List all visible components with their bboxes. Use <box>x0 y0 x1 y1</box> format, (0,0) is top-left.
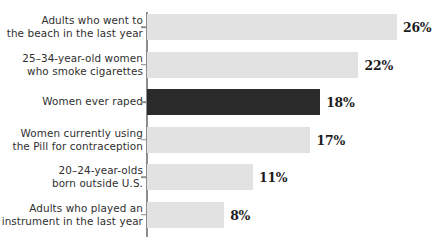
axis-tick <box>141 176 146 178</box>
axis-tick <box>141 214 146 216</box>
bar-row: Adults who went to the beach in the last… <box>0 14 437 40</box>
bar <box>147 52 358 78</box>
bar <box>147 127 310 153</box>
bar <box>147 14 397 40</box>
category-label: 20–24-year-olds born outside U.S. <box>0 164 143 190</box>
bar-value-label: 8% <box>230 207 250 222</box>
category-label: 25–34-year-old women who smoke cigarette… <box>0 51 143 77</box>
bar-value-label: 18% <box>326 95 354 110</box>
bar-row: Women currently using the Pill for contr… <box>0 127 437 153</box>
axis-tick <box>141 101 146 103</box>
bar-row: Women ever raped 18% <box>0 89 437 115</box>
bar-value-label: 22% <box>365 57 393 72</box>
bar-value-label: 11% <box>259 170 287 185</box>
axis-tick <box>141 139 146 141</box>
category-label: Adults who played an instrument in the l… <box>0 201 143 227</box>
horizontal-bar-chart: Adults who went to the beach in the last… <box>0 0 437 244</box>
bar-highlighted <box>147 89 320 115</box>
axis-tick <box>141 26 146 28</box>
bar-rows: Adults who went to the beach in the last… <box>0 0 437 244</box>
category-label: Adults who went to the beach in the last… <box>0 14 143 40</box>
category-label: Women currently using the Pill for contr… <box>0 126 143 152</box>
bar-value-label: 26% <box>403 20 431 35</box>
bar <box>147 202 224 228</box>
bar-value-label: 17% <box>317 132 345 147</box>
bar-row: 20–24-year-olds born outside U.S. 11% <box>0 164 437 190</box>
bar <box>147 164 253 190</box>
category-label: Women ever raped <box>0 95 143 108</box>
bar-row: Adults who played an instrument in the l… <box>0 202 437 228</box>
bar-row: 25–34-year-old women who smoke cigarette… <box>0 52 437 78</box>
axis-tick <box>141 64 146 66</box>
